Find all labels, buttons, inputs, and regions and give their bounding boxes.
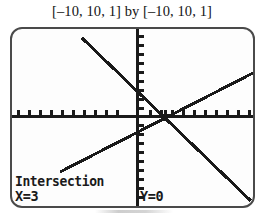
scan-artifact (95, 210, 173, 213)
rising-line-plot (60, 73, 253, 172)
x-axis-ticks (17, 110, 251, 115)
graphing-calculator-figure: [–10, 10, 1] by [–10, 10, 1] (0, 0, 264, 223)
y-coordinate-readout: Y=0 (140, 189, 163, 203)
calculator-screen: Intersection X=3 Y=0 (10, 27, 255, 208)
x-coordinate-readout: X=3 (15, 189, 38, 203)
window-setting-caption: [–10, 10, 1] by [–10, 10, 1] (0, 1, 264, 21)
x-axis (12, 110, 253, 118)
intersection-mode-label: Intersection (15, 174, 104, 188)
